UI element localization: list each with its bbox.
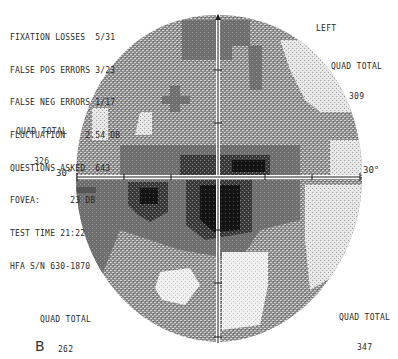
quad-value: 326 <box>16 157 67 167</box>
quad-total-lower-left: QUAD TOTAL 262 <box>40 295 91 359</box>
quad-value: 309 <box>331 92 382 102</box>
quad-label: QUAD TOTAL <box>331 62 382 72</box>
quad-label: QUAD TOTAL <box>16 127 67 137</box>
quad-label: QUAD TOTAL <box>339 313 390 323</box>
hfa-serial: HFA S/N 630-1870 <box>10 262 120 273</box>
quad-total-lower-right: QUAD TOTAL 347 <box>339 293 390 359</box>
axis-label-left-30deg: 30° <box>56 168 72 178</box>
axis-label-right-30deg: 30° <box>363 165 379 175</box>
fixation-losses: FIXATION LOSSES 5/31 <box>10 33 120 44</box>
quad-label: QUAD TOTAL <box>40 315 91 325</box>
fovea: FOVEA: 23 DB <box>10 196 120 207</box>
false-pos-errors: FALSE POS ERRORS 3/23 <box>10 66 120 77</box>
figure-panel-label: B <box>35 338 45 354</box>
quad-value: 347 <box>339 343 390 353</box>
quad-total-upper-right: QUAD TOTAL 309 <box>331 42 382 112</box>
eye-label: LEFT <box>316 24 336 34</box>
quad-total-upper-left: QUAD TOTAL 326 <box>16 107 67 177</box>
quad-value: 262 <box>40 345 91 355</box>
test-time: TEST TIME 21:22 <box>10 229 120 240</box>
